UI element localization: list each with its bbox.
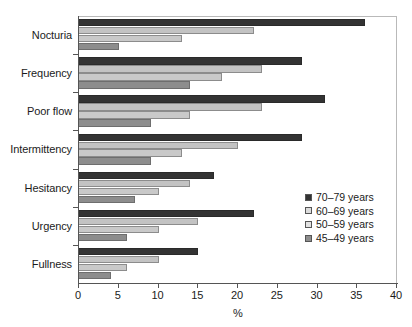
x-axis-tick-label: 35 (350, 289, 362, 301)
y-axis-tick (73, 169, 79, 170)
y-axis-tick (73, 130, 79, 131)
bar (79, 57, 302, 64)
category-label: Poor flow (27, 105, 72, 117)
category-label: Hesitancy (25, 182, 72, 194)
y-axis-tick (73, 54, 79, 55)
legend-label: 70–79 years (316, 192, 374, 203)
bar (79, 27, 254, 34)
x-axis-title: % (78, 307, 398, 319)
category-group: Fullness (79, 245, 397, 283)
bar (79, 19, 365, 26)
category-group: Frequency (79, 54, 397, 92)
x-axis-tick (277, 283, 278, 288)
bar (79, 73, 222, 80)
legend-label: 45–49 years (316, 233, 374, 244)
bar (79, 149, 182, 156)
category-label: Urgency (32, 220, 72, 232)
x-axis-tick (197, 283, 198, 288)
x-axis-tick (317, 283, 318, 288)
bar (79, 226, 159, 233)
x-axis-tick-label: 20 (231, 289, 243, 301)
x-axis-tick-label: 25 (271, 289, 283, 301)
bar (79, 234, 127, 241)
bar (79, 172, 214, 179)
x-axis-tick-label: 30 (310, 289, 322, 301)
legend-item: 60–69 years (305, 206, 374, 217)
bar-stack (79, 248, 397, 280)
x-axis-tick-label: 15 (191, 289, 203, 301)
bar-stack (79, 57, 397, 89)
bar (79, 142, 238, 149)
x-axis-tick (78, 283, 79, 288)
x-axis-tick-label: 10 (151, 289, 163, 301)
bar (79, 188, 159, 195)
legend-item: 45–49 years (305, 233, 374, 244)
legend-item: 50–59 years (305, 219, 374, 230)
legend-label: 60–69 years (316, 206, 374, 217)
category-group: Intermittency (79, 130, 397, 168)
bar (79, 65, 262, 72)
x-axis-tick-label: 0 (75, 289, 81, 301)
legend-swatch-70-79 (305, 194, 312, 201)
bar-chart: NocturiaFrequencyPoor flowIntermittencyH… (0, 0, 412, 327)
bar (79, 95, 325, 102)
bar-stack (79, 134, 397, 166)
legend-label: 50–59 years (316, 219, 374, 230)
bar (79, 180, 190, 187)
x-axis-tick-label: 5 (115, 289, 121, 301)
bar (79, 35, 182, 42)
category-label: Frequency (21, 67, 72, 79)
bar (79, 119, 151, 126)
category-group: Nocturia (79, 16, 397, 54)
bar (79, 134, 302, 141)
category-label: Nocturia (32, 29, 72, 41)
bar-stack (79, 19, 397, 51)
x-axis-line (78, 283, 398, 284)
bar (79, 43, 119, 50)
bar (79, 196, 135, 203)
bar (79, 218, 198, 225)
y-axis-tick (73, 207, 79, 208)
bar (79, 103, 262, 110)
bar (79, 157, 151, 164)
legend-swatch-45-49 (305, 235, 312, 242)
bar (79, 81, 190, 88)
bar (79, 272, 111, 279)
category-group: Poor flow (79, 92, 397, 130)
bar (79, 210, 254, 217)
x-axis-tick (118, 283, 119, 288)
x-axis-tick-label: 40 (390, 289, 402, 301)
y-axis-tick (73, 92, 79, 93)
bar-stack (79, 95, 397, 127)
legend-swatch-50-59 (305, 221, 312, 228)
legend-swatch-60-69 (305, 207, 312, 214)
x-axis-tick (158, 283, 159, 288)
legend-item: 70–79 years (305, 192, 374, 203)
y-axis-tick (73, 245, 79, 246)
x-axis-tick (237, 283, 238, 288)
bar (79, 111, 190, 118)
x-axis-tick (356, 283, 357, 288)
chart-legend: 70–79 years60–69 years50–59 years45–49 y… (305, 192, 374, 244)
bar (79, 264, 127, 271)
category-label: Fullness (32, 258, 72, 270)
category-label: Intermittency (10, 143, 72, 155)
bar (79, 248, 198, 255)
x-axis-tick (396, 283, 397, 288)
bar (79, 256, 159, 263)
